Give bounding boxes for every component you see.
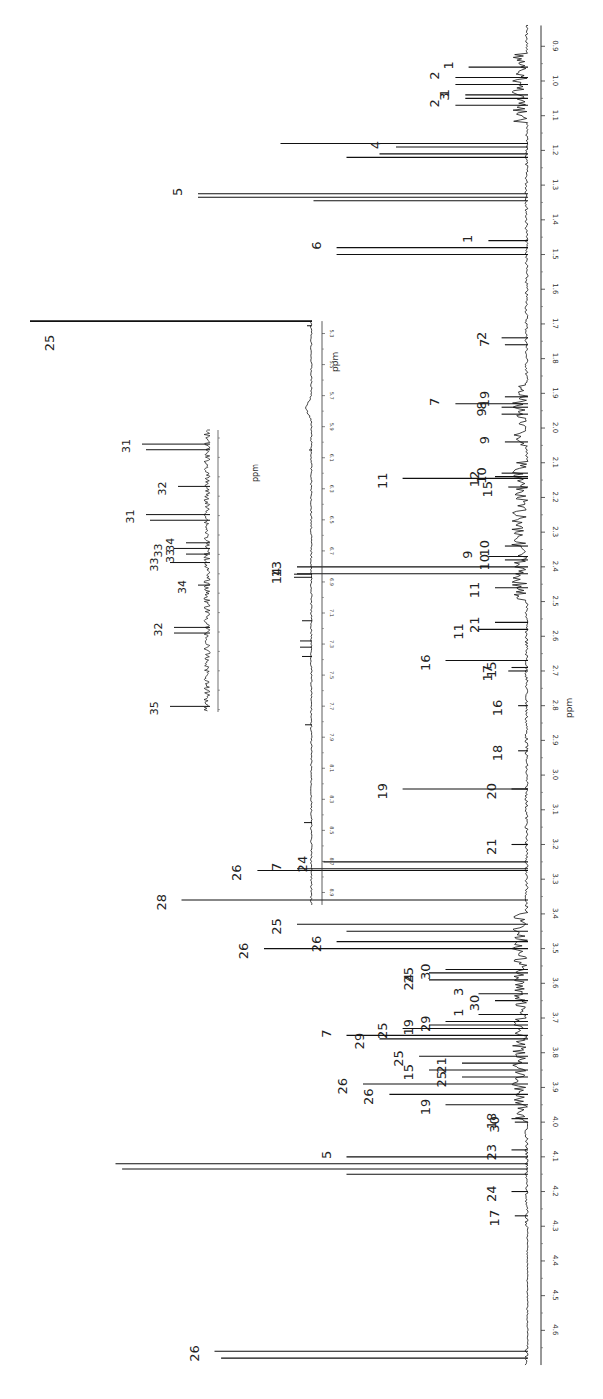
peak-label: 30 [418, 963, 433, 980]
peak-label: 25 [434, 1071, 449, 1088]
axis-tick-label: 4.6 [551, 1324, 559, 1336]
axis-tick-label: 2.8 [551, 700, 559, 711]
inset1-tick-label: 8.9 [329, 888, 335, 896]
peak-label: 1 [441, 61, 456, 69]
peak-label: 26 [309, 936, 324, 953]
peak-label: 31 [120, 439, 133, 453]
peak-label: 24 [484, 1186, 499, 1203]
peak-label: 20 [484, 783, 499, 800]
peak-label: 5 [319, 1151, 334, 1159]
axis-tick-label: 2.4 [551, 561, 559, 573]
peak-label: 24 [401, 974, 416, 991]
inset1-tick-label: 7.9 [329, 733, 335, 741]
peak-label: 23 [484, 1144, 499, 1161]
inset1-tick-label: 6.9 [329, 578, 335, 586]
peak-label: 35 [148, 701, 161, 715]
peak-label: 1 [451, 1009, 466, 1017]
peak-label: 31 [124, 510, 137, 524]
axis-tick-label: 4.0 [551, 1116, 559, 1127]
peak-label: 26 [187, 1345, 202, 1362]
main-ppm-axis: 0.91.01.11.21.31.41.51.61.71.81.92.02.12… [541, 25, 559, 1365]
axis-tick-label: 3.9 [551, 1081, 559, 1092]
peak-label: 32 [156, 481, 169, 495]
axis-tick-label: 4.5 [551, 1290, 559, 1301]
peak-label: 34 [176, 580, 189, 594]
peak-label: 33 [148, 558, 161, 572]
peak-label: 25 [42, 335, 57, 352]
peak-label: 33 [164, 549, 177, 563]
peak-label: 16 [490, 700, 505, 717]
axis-tick-label: 3.7 [551, 1012, 559, 1023]
inset1-tick-label: 5.7 [329, 392, 335, 400]
inset1-tick-label: 7.3 [329, 640, 335, 648]
axis-tick-label: 1.8 [551, 353, 559, 364]
peak-label: 29 [352, 1033, 367, 1050]
axis-tick-label: 4.1 [551, 1151, 559, 1162]
axis-tick-label: 3.0 [551, 769, 559, 780]
axis-tick-label: 2.9 [551, 734, 559, 745]
peak-label: 19 [477, 391, 492, 408]
peak-label: 2 [427, 72, 442, 80]
peak-label: 21 [467, 616, 482, 633]
inset1-tick-label: 5.3 [329, 330, 335, 338]
axis-tick-label: 4.4 [551, 1255, 559, 1267]
peak-label: 11 [467, 582, 482, 599]
peak-label: 15 [480, 481, 495, 498]
axis-tick-label: 3.6 [551, 977, 559, 989]
peak-label: 21 [484, 838, 499, 855]
axis-tick-label: 1.3 [551, 179, 559, 190]
peak-label: 28 [154, 894, 169, 911]
peak-label: 26 [335, 1078, 350, 1095]
axis-tick-label: 3.1 [551, 804, 559, 815]
axis-tick-label: 3.4 [551, 908, 559, 920]
peak-label: 2 [427, 99, 442, 107]
axis-tick-label: 1.5 [551, 249, 559, 260]
axis-tick-label: 2.0 [551, 422, 559, 433]
axis-tick-label: 1.1 [551, 110, 559, 121]
axis-tick-label: 1.4 [551, 214, 559, 226]
peak-label: 19 [418, 1099, 433, 1116]
axis-tick-label: 3.2 [551, 838, 559, 849]
axis-tick-label: 2.7 [551, 665, 559, 676]
peak-label: 7 [427, 398, 442, 406]
axis-tick-label: 2.5 [551, 596, 559, 607]
inset1-axis-title: ppm [330, 352, 340, 372]
inset1-tick-label: 6.5 [329, 516, 335, 524]
axis-tick-label: 3.3 [551, 873, 559, 884]
peak-label: 9 [477, 436, 492, 444]
inset-spectrum-aromatic: 5.35.55.75.96.16.36.56.76.97.17.37.57.77… [30, 321, 335, 905]
peak-label: 25 [269, 918, 284, 935]
inset1-tick-label: 7.1 [329, 609, 335, 617]
axis-tick-label: 1.6 [551, 283, 559, 295]
peak-label: 7 [477, 339, 492, 347]
peak-label: 19 [401, 1019, 416, 1036]
inset1-tick-label: 6.7 [329, 547, 335, 555]
peak-label: 26 [361, 1088, 376, 1105]
peak-label: 16 [418, 655, 433, 672]
peak-label: 7 [319, 1029, 334, 1037]
axis-tick-label: 2.6 [551, 630, 559, 642]
peak-label: 1 [460, 235, 475, 243]
axis-tick-label: 1.2 [551, 144, 559, 155]
peak-label: 3 [451, 988, 466, 996]
inset1-tick-label: 8.7 [329, 857, 335, 865]
peak-label: 30 [467, 995, 482, 1012]
inset1-tick-label: 7.7 [329, 702, 335, 710]
peak-label: 6 [309, 242, 324, 250]
peak-label: 5 [170, 188, 185, 196]
peak-label: 9 [460, 550, 475, 558]
inset1-tick-label: 7.5 [329, 671, 335, 679]
axis-tick-label: 3.8 [551, 1047, 559, 1058]
peak-label: 26 [229, 865, 244, 882]
peak-label: 32 [152, 622, 165, 636]
peak-label: 29 [418, 1015, 433, 1032]
peak-label: 25 [375, 1022, 390, 1039]
peak-label: 7 [269, 863, 284, 871]
inset2-axis-title: ppm [251, 464, 260, 482]
peak-label: 19 [375, 783, 390, 800]
inset1-tick-label: 8.1 [329, 764, 335, 772]
inset1-tick-label: 6.3 [329, 485, 335, 493]
peak-label: 26 [236, 943, 251, 960]
peak-label: 10 [477, 554, 492, 571]
peak-label: 11 [451, 623, 466, 640]
